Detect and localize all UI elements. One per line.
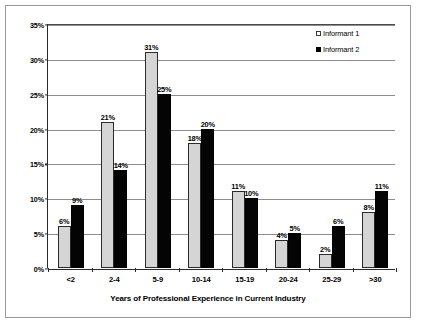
bar-group: 4%5% [275, 25, 301, 268]
x-category-label: 20-24 [279, 275, 298, 284]
bar[interactable]: 14% [114, 170, 127, 268]
bar[interactable]: 9% [71, 205, 84, 268]
bar-value-label: 11% [375, 182, 389, 191]
legend-swatch-icon [316, 47, 321, 52]
bar-value-label: 4% [277, 231, 287, 240]
bar-value-label: 2% [320, 245, 330, 254]
x-tick-mark [179, 268, 180, 272]
x-tick-mark [135, 268, 136, 272]
legend-label: Informant 1 [323, 29, 359, 38]
x-category-label: 10-14 [192, 275, 211, 284]
bar[interactable]: 31% [145, 52, 158, 268]
x-axis-title: Years of Professional Experience in Curr… [6, 294, 410, 303]
y-tick-label: 0% [34, 265, 44, 274]
y-tick-label: 10% [30, 195, 44, 204]
legend-swatch-icon [316, 31, 321, 36]
bar[interactable]: 18% [188, 143, 201, 268]
bar[interactable]: 6% [58, 226, 71, 268]
x-tick-mark [266, 268, 267, 272]
bar[interactable]: 11% [375, 191, 388, 268]
bar-group: 2%6% [319, 25, 345, 268]
x-tick-mark [309, 268, 310, 272]
bar-value-label: 31% [144, 43, 158, 52]
x-tick-mark [396, 268, 397, 272]
bar-value-label: 18% [188, 134, 202, 143]
legend-entry[interactable]: Informant 1 [316, 29, 359, 38]
bar[interactable]: 10% [245, 198, 258, 268]
bar-group: 6%9% [58, 25, 84, 268]
bar-group: 31%25% [145, 25, 171, 268]
bar-value-label: 21% [101, 113, 115, 122]
x-tick-mark [353, 268, 354, 272]
y-tick-label: 20% [30, 125, 44, 134]
bar-value-label: 8% [364, 203, 374, 212]
bar-value-label: 6% [59, 217, 69, 226]
bar-value-label: 25% [157, 85, 171, 94]
bar[interactable]: 2% [319, 254, 332, 268]
bar[interactable]: 21% [101, 122, 114, 268]
bar-value-label: 14% [114, 161, 128, 170]
bar[interactable]: 4% [275, 240, 288, 268]
y-tick-label: 35% [30, 21, 44, 30]
chart-frame: 0%5%10%15%20%25%30%35% 6%9%21%14%31%25%1… [5, 5, 411, 318]
bar-value-label: 20% [201, 120, 215, 129]
bar-value-label: 9% [72, 196, 82, 205]
plot-area: 0%5%10%15%20%25%30%35% 6%9%21%14%31%25%1… [47, 24, 395, 268]
bar[interactable]: 8% [362, 212, 375, 268]
x-category-label: 15-19 [235, 275, 254, 284]
bar[interactable]: 6% [332, 226, 345, 268]
legend-label: Informant 2 [323, 45, 359, 54]
x-category-label: 25-29 [322, 275, 341, 284]
bar[interactable]: 20% [201, 129, 214, 268]
y-tick-label: 25% [30, 90, 44, 99]
bar-group: 8%11% [362, 25, 388, 268]
bar[interactable]: 11% [232, 191, 245, 268]
x-tick-mark [222, 268, 223, 272]
bar[interactable]: 5% [288, 233, 301, 268]
bar[interactable]: 25% [158, 94, 171, 268]
x-tick-mark [48, 268, 49, 272]
x-tick-mark [92, 268, 93, 272]
bar-group: 11%10% [232, 25, 258, 268]
bar-value-label: 5% [290, 224, 300, 233]
chart-legend: Informant 1Informant 2 [316, 29, 359, 54]
bar-group: 21%14% [101, 25, 127, 268]
x-category-label: 2-4 [109, 275, 120, 284]
y-tick-label: 15% [30, 160, 44, 169]
bar-value-label: 10% [244, 189, 258, 198]
y-tick-label: 30% [30, 55, 44, 64]
x-category-label: <2 [67, 275, 75, 284]
bar-value-label: 6% [333, 217, 343, 226]
bar-value-label: 11% [231, 182, 245, 191]
y-tick-label: 5% [34, 230, 44, 239]
x-category-label: >30 [369, 275, 382, 284]
bar-series-layer: 6%9%21%14%31%25%18%20%11%10%4%5%2%6%8%11… [48, 25, 395, 268]
legend-entry[interactable]: Informant 2 [316, 45, 359, 54]
bar-group: 18%20% [188, 25, 214, 268]
x-category-label: 5-9 [152, 275, 163, 284]
